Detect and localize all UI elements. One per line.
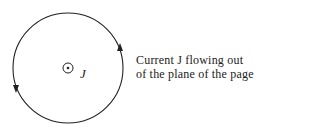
- caption-line-1: Current J flowing out: [136, 53, 254, 67]
- current-label: J: [80, 66, 86, 82]
- caption: Current J flowing out of the plane of th…: [136, 53, 254, 81]
- caption-line-2: of the plane of the page: [136, 67, 254, 81]
